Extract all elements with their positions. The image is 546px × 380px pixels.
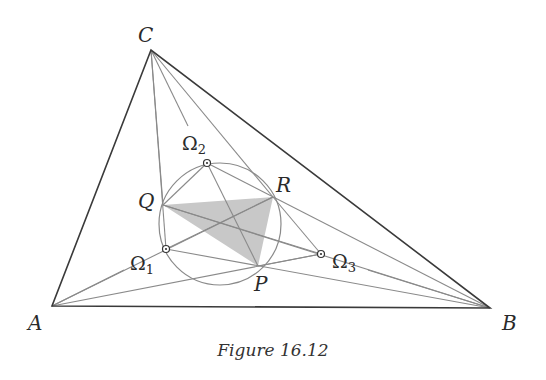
label-a: A	[26, 311, 42, 335]
label-b: B	[501, 311, 517, 335]
label-omega2: Ω2	[182, 132, 206, 157]
label-omega1: Ω1	[130, 252, 154, 277]
omega3-marker	[318, 251, 325, 258]
figure-caption: Figure 16.12	[0, 340, 546, 360]
label-p: P	[253, 272, 268, 296]
shaded-triangle-pqr	[163, 197, 273, 266]
label-r: R	[275, 173, 291, 197]
geometry-figure: A B C P Q R Ω2 Ω1 Ω3	[0, 0, 546, 380]
omega1-marker	[163, 246, 170, 253]
label-q: Q	[138, 189, 154, 213]
omega2-marker	[204, 160, 211, 167]
triangle-abc	[52, 50, 490, 308]
label-omega3: Ω3	[332, 250, 356, 275]
label-c: C	[138, 23, 153, 47]
